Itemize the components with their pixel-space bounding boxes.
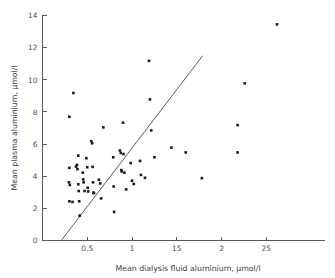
data-point bbox=[125, 188, 128, 191]
data-point bbox=[68, 167, 71, 170]
data-point bbox=[120, 152, 123, 155]
data-point bbox=[98, 178, 101, 181]
data-point bbox=[170, 146, 173, 149]
equality-reference-line bbox=[61, 56, 202, 241]
data-point bbox=[77, 154, 80, 157]
data-point bbox=[76, 168, 79, 171]
data-point bbox=[131, 179, 134, 182]
data-point bbox=[140, 174, 143, 177]
data-point bbox=[91, 142, 94, 145]
data-point bbox=[113, 211, 116, 214]
data-point bbox=[122, 153, 125, 156]
data-point bbox=[76, 164, 79, 167]
data-point bbox=[112, 185, 115, 188]
data-point bbox=[122, 121, 125, 124]
data-point bbox=[78, 200, 81, 203]
data-point bbox=[78, 214, 81, 217]
data-point bbox=[112, 156, 115, 159]
data-points-group bbox=[68, 23, 279, 217]
data-point bbox=[69, 184, 72, 187]
data-point bbox=[77, 183, 80, 186]
data-point bbox=[83, 190, 86, 193]
data-point bbox=[68, 181, 71, 184]
data-point bbox=[85, 157, 88, 160]
data-point bbox=[100, 197, 103, 200]
data-point bbox=[119, 149, 122, 152]
data-point bbox=[93, 192, 96, 195]
scatter-plot-figure: 0.511522502468101214 Mean dialysis fluid… bbox=[0, 0, 335, 278]
x-axis-tick-label: 0.5 bbox=[81, 244, 93, 253]
data-point bbox=[82, 181, 85, 184]
y-axis-tick-label: 14 bbox=[28, 11, 38, 20]
data-point bbox=[77, 190, 80, 193]
y-axis-tick-label: 4 bbox=[33, 172, 38, 181]
data-point bbox=[71, 201, 74, 204]
x-axis-title: Mean dialysis fluid aluminium, µmol/l bbox=[115, 264, 260, 273]
data-point bbox=[201, 177, 204, 180]
y-axis-title: Mean plasma aluminium, µmol/l bbox=[10, 65, 19, 190]
data-point bbox=[72, 92, 75, 95]
data-point bbox=[91, 166, 94, 169]
data-point bbox=[68, 115, 71, 118]
data-point bbox=[86, 166, 89, 169]
data-point bbox=[184, 151, 187, 154]
data-point bbox=[276, 23, 279, 26]
data-point bbox=[149, 98, 152, 101]
data-point bbox=[87, 190, 90, 193]
data-point bbox=[132, 183, 135, 186]
data-point bbox=[82, 178, 85, 181]
x-axis-tick-label: 2 bbox=[219, 244, 224, 253]
data-point bbox=[236, 124, 239, 127]
chart-canvas: 0.511522502468101214 Mean dialysis fluid… bbox=[0, 0, 335, 278]
axes-group bbox=[43, 15, 326, 241]
data-point bbox=[148, 60, 151, 63]
data-point bbox=[102, 126, 105, 129]
data-point bbox=[139, 160, 142, 163]
data-point bbox=[81, 171, 84, 174]
data-point bbox=[129, 162, 132, 165]
data-point bbox=[92, 181, 95, 184]
y-axis-tick-label: 10 bbox=[28, 76, 38, 85]
axis-titles-group: Mean dialysis fluid aluminium, µmol/l Me… bbox=[10, 65, 261, 273]
data-point bbox=[99, 182, 102, 185]
data-point bbox=[86, 186, 89, 189]
reference-line-group bbox=[61, 56, 202, 241]
data-point bbox=[153, 156, 156, 159]
y-axis-tick-label: 2 bbox=[33, 204, 38, 213]
data-point bbox=[120, 170, 123, 173]
data-point bbox=[123, 171, 126, 174]
y-axis-tick-label: 6 bbox=[33, 140, 38, 149]
data-point bbox=[150, 129, 153, 132]
y-axis-tick-label: 12 bbox=[28, 43, 37, 52]
x-axis-tick-label: 25 bbox=[262, 244, 272, 253]
tick-labels-group: 0.511522502468101214 bbox=[28, 11, 271, 252]
x-axis-tick-label: 1 bbox=[130, 244, 135, 253]
data-point bbox=[144, 177, 147, 180]
y-axis-tick-label: 8 bbox=[33, 108, 38, 117]
data-point bbox=[68, 200, 71, 203]
x-axis-tick-label: 15 bbox=[172, 244, 182, 253]
y-axis-tick-label: 0 bbox=[33, 236, 38, 245]
data-point bbox=[243, 82, 246, 85]
data-point bbox=[236, 151, 239, 154]
